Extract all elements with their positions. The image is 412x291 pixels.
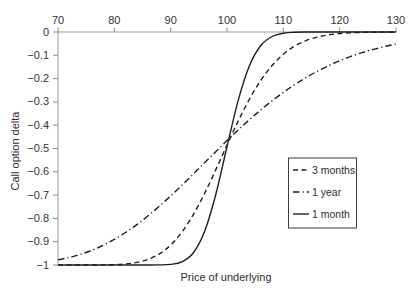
call-option-delta-figure: 7080901001101201300−0.1−0.2−0.3−0.4−0.5−… xyxy=(0,0,412,291)
y-tick-label: −0.9 xyxy=(27,235,49,247)
y-tick-label: −0.6 xyxy=(27,165,49,177)
y-axis-title: Call option delta xyxy=(9,111,21,191)
legend-label-1-month: 1 month xyxy=(312,208,350,220)
curve-1-month xyxy=(58,32,396,265)
x-tick-label: 100 xyxy=(218,14,236,26)
x-tick-label: 130 xyxy=(387,14,405,26)
legend-label-1-year: 1 year xyxy=(312,186,342,198)
axes: 7080901001101201300−0.1−0.2−0.3−0.4−0.5−… xyxy=(27,14,405,271)
x-tick-label: 80 xyxy=(108,14,120,26)
y-tick-label: −0.2 xyxy=(27,72,49,84)
y-tick-label: −0.7 xyxy=(27,189,49,201)
x-tick-label: 110 xyxy=(275,14,293,26)
y-tick-label: −1 xyxy=(36,259,49,271)
chart-svg: 7080901001101201300−0.1−0.2−0.3−0.4−0.5−… xyxy=(0,0,412,291)
y-tick-label: 0 xyxy=(43,26,49,38)
y-tick-label: −0.5 xyxy=(27,142,49,154)
y-tick-label: −0.3 xyxy=(27,95,49,107)
y-tick-label: −0.8 xyxy=(27,212,49,224)
legend-label-3-months: 3 months xyxy=(312,164,355,176)
x-tick-label: 90 xyxy=(165,14,177,26)
curves xyxy=(58,32,396,265)
x-tick-label: 70 xyxy=(52,14,64,26)
x-tick-label: 120 xyxy=(330,14,348,26)
legend: 3 months 1 year 1 month xyxy=(289,158,357,228)
x-axis-title: Price of underlying xyxy=(180,271,271,283)
y-tick-label: −0.1 xyxy=(27,49,49,61)
y-tick-label: −0.4 xyxy=(27,119,49,131)
